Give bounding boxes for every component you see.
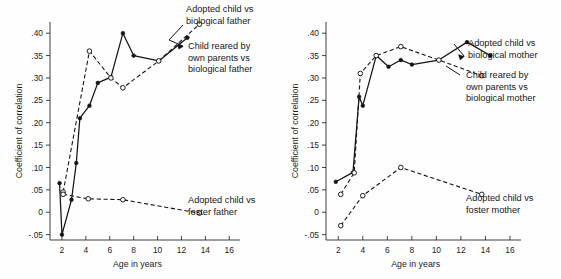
data-point-marker (121, 31, 125, 35)
data-point-marker (410, 63, 414, 67)
data-point-marker (334, 180, 338, 184)
data-point-marker (361, 104, 365, 108)
data-point-marker (374, 53, 379, 58)
y-axis-tick-label: .40 (31, 28, 43, 38)
y-axis-tick-label: .35 (307, 51, 319, 61)
data-point-marker (437, 58, 442, 63)
x-axis-tick-label: 2 (336, 245, 341, 255)
data-point-marker (399, 44, 404, 49)
data-point-marker (61, 192, 66, 197)
data-point-marker (387, 65, 391, 69)
y-axis-tick-label: .15 (31, 140, 43, 150)
data-point-marker (360, 193, 365, 198)
plot-area-mothers: -.050.05.10.15.20.25.30.35.4024681012141… (280, 0, 561, 279)
y-axis-tick-label: .15 (307, 140, 319, 150)
y-axis-tick-label: .30 (31, 73, 43, 83)
x-axis-tick-label: 16 (225, 245, 235, 255)
data-point-marker (74, 161, 78, 165)
data-point-marker (399, 58, 403, 62)
data-point-marker (109, 76, 114, 81)
y-axis-tick-label: .20 (307, 118, 319, 128)
x-axis-tick-label: 12 (456, 245, 466, 255)
y-axis-tick-label: 0 (38, 207, 43, 217)
y-axis-tick-label: .40 (307, 28, 319, 38)
y-axis-tick-label: .35 (31, 51, 43, 61)
data-point-marker (197, 22, 202, 27)
y-axis-tick-label: .25 (31, 95, 43, 105)
chart-panel-mothers: -.050.05.10.15.20.25.30.35.4024681012141… (280, 0, 561, 279)
x-axis-tick-label: 16 (505, 245, 515, 255)
chart-panel-fathers: -.050.05.10.15.20.25.30.35.4024681012141… (0, 0, 280, 279)
data-point-marker (88, 104, 92, 108)
data-point-marker (121, 86, 126, 91)
x-axis-tick-label: 12 (177, 245, 187, 255)
data-point-marker (479, 192, 484, 197)
y-axis-tick-label: .05 (307, 185, 319, 195)
data-point-marker (352, 171, 357, 176)
x-axis-title: Age in years (113, 259, 162, 269)
data-point-marker (488, 54, 492, 58)
data-point-marker (358, 71, 363, 76)
data-point-marker (479, 73, 484, 78)
x-axis-tick-label: 10 (153, 245, 163, 255)
x-axis-tick-label: 6 (385, 245, 390, 255)
y-axis-title: Coefficient of correlation (14, 84, 24, 179)
data-point-marker (70, 198, 74, 202)
y-axis-title: Coefficient of correlation (290, 84, 300, 179)
data-point-marker (96, 81, 100, 85)
data-point-marker (86, 197, 91, 202)
data-point-marker (58, 181, 62, 185)
data-point-marker (338, 192, 343, 197)
data-point-marker (121, 197, 126, 202)
data-point-marker (87, 49, 92, 54)
x-axis-tick-label: 8 (131, 245, 136, 255)
data-point-marker (399, 165, 404, 170)
x-axis-tick-label: 8 (410, 245, 415, 255)
y-axis-tick-label: -.05 (29, 230, 44, 240)
y-axis-tick-label: .10 (31, 163, 43, 173)
x-axis-title: Age in years (391, 259, 440, 269)
series-line-0 (60, 33, 188, 234)
y-axis-tick-label: .30 (307, 73, 319, 83)
y-axis-tick-label: 0 (314, 207, 319, 217)
series-line-2 (63, 194, 199, 213)
x-axis-tick-label: 14 (201, 245, 211, 255)
y-axis-tick-label: .05 (31, 185, 43, 195)
series-line-1 (341, 47, 482, 195)
x-axis-tick-label: 14 (481, 245, 491, 255)
y-axis-tick-label: .20 (31, 118, 43, 128)
x-axis-tick-label: 2 (60, 245, 65, 255)
x-axis-tick-label: 6 (107, 245, 112, 255)
y-axis-tick-label: .10 (307, 163, 319, 173)
figure-canvas: -.050.05.10.15.20.25.30.35.4024681012141… (0, 0, 561, 279)
y-axis-tick-label: .25 (307, 95, 319, 105)
x-axis-tick-label: 10 (432, 245, 442, 255)
data-point-marker (465, 40, 469, 44)
data-point-marker (132, 54, 136, 58)
x-axis-tick-label: 4 (360, 245, 365, 255)
data-point-marker (156, 59, 161, 64)
data-point-marker (78, 116, 82, 120)
x-axis-tick-label: 4 (84, 245, 89, 255)
data-point-marker (197, 211, 202, 216)
y-axis-tick-label: -.05 (305, 230, 320, 240)
data-point-marker (60, 233, 64, 237)
data-point-marker (338, 223, 343, 228)
plot-area-fathers: -.050.05.10.15.20.25.30.35.4024681012141… (0, 0, 280, 279)
